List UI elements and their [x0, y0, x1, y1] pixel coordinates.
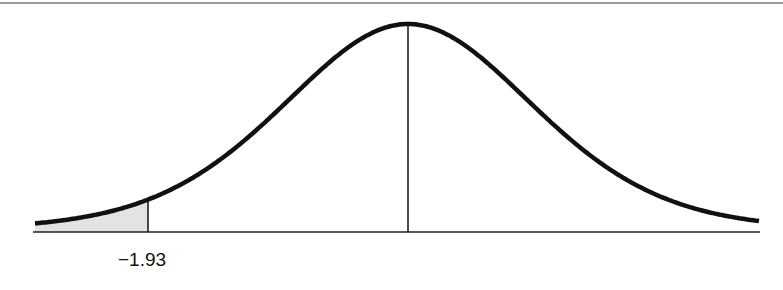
normal-curve-chart [0, 0, 783, 290]
density-curve [35, 24, 759, 223]
cutoff-label: −1.93 [118, 249, 166, 271]
